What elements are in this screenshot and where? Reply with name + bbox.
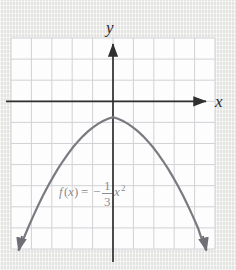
equation-variable-2: x: [113, 184, 120, 199]
equation-close-paren: ): [74, 184, 78, 199]
equation-exponent: 2: [121, 183, 126, 193]
equation-equals: =: [81, 184, 88, 199]
parabola-plot: x y f ( x ) = − 1 3 x 2: [0, 0, 236, 270]
y-axis-label: y: [104, 18, 114, 37]
equation-minus-sign: −: [93, 184, 100, 199]
graph-figure: x y f ( x ) = − 1 3 x 2: [0, 0, 236, 270]
equation-denominator: 3: [104, 194, 111, 209]
x-axis-label: x: [214, 92, 223, 111]
equation-numerator: 1: [104, 178, 111, 193]
equation-variable: x: [67, 184, 74, 199]
